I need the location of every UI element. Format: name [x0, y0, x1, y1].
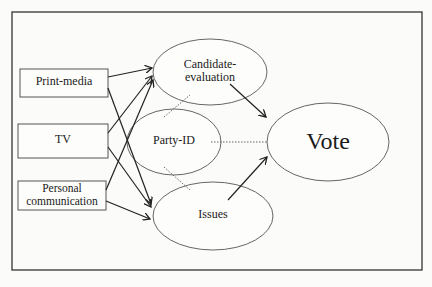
- candidate-line2: evaluation: [153, 71, 267, 84]
- issues-label: Issues: [153, 208, 273, 221]
- personal-line2: communication: [18, 195, 106, 208]
- tv-label: TV: [18, 133, 108, 146]
- print-media-label: Print-media: [20, 75, 108, 88]
- personal-communication-label: Personal communication: [18, 182, 106, 207]
- party-id-label: Party-ID: [127, 134, 221, 147]
- edge-personal-issues: [106, 201, 150, 219]
- candidate-evaluation-label: Candidate- evaluation: [153, 58, 267, 84]
- vote-label: Vote: [267, 128, 389, 154]
- edge-print-candidate: [108, 68, 152, 77]
- personal-line1: Personal: [18, 182, 106, 195]
